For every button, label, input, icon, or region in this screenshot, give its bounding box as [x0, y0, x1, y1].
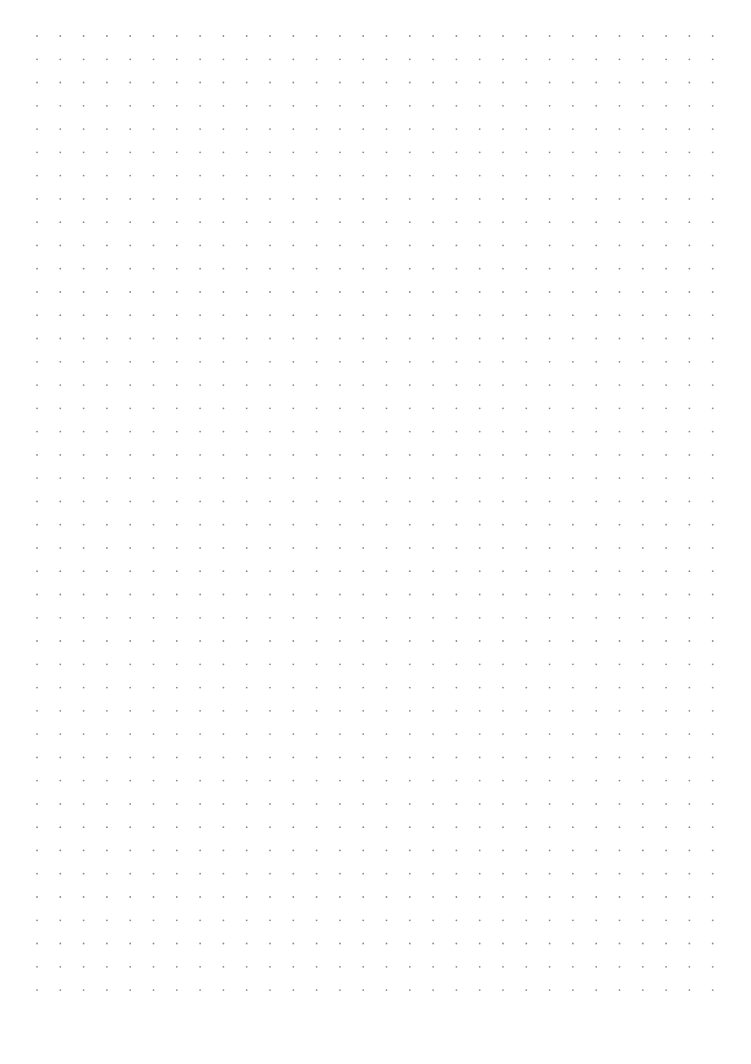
grid-dot: [176, 384, 178, 386]
grid-dot: [362, 151, 364, 153]
grid-dot: [525, 617, 527, 619]
grid-dot: [502, 361, 504, 363]
grid-dot: [712, 687, 714, 689]
grid-dot: [316, 826, 318, 828]
grid-dot: [665, 826, 667, 828]
grid-dot: [432, 896, 434, 898]
grid-dot: [502, 687, 504, 689]
grid-dot: [246, 198, 248, 200]
grid-dot: [362, 873, 364, 875]
grid-dot: [502, 850, 504, 852]
grid-dot: [432, 477, 434, 479]
grid-dot: [292, 221, 294, 223]
grid-dot: [199, 640, 201, 642]
grid-dot: [269, 501, 271, 503]
grid-dot: [223, 361, 225, 363]
grid-dot: [246, 617, 248, 619]
grid-dot: [386, 757, 388, 759]
grid-dot: [665, 966, 667, 968]
grid-dot: [689, 594, 691, 596]
grid-dot: [316, 361, 318, 363]
grid-dot: [712, 594, 714, 596]
grid-dot: [572, 58, 574, 60]
grid-dot: [502, 501, 504, 503]
grid-dot: [595, 338, 597, 340]
grid-dot: [712, 663, 714, 665]
grid-dot: [479, 128, 481, 130]
grid-dot: [712, 850, 714, 852]
grid-dot: [316, 943, 318, 945]
grid-dot: [712, 291, 714, 293]
grid-dot: [689, 407, 691, 409]
grid-dot: [316, 989, 318, 991]
grid-dot: [572, 477, 574, 479]
grid-dot: [176, 58, 178, 60]
grid-dot: [525, 128, 527, 130]
grid-dot: [456, 966, 458, 968]
grid-dot: [176, 547, 178, 549]
grid-dot: [269, 943, 271, 945]
grid-dot: [619, 826, 621, 828]
grid-dot: [386, 617, 388, 619]
grid-dot: [292, 361, 294, 363]
grid-dot: [59, 407, 61, 409]
grid-dot: [199, 58, 201, 60]
grid-dot: [176, 780, 178, 782]
grid-dot: [129, 58, 131, 60]
grid-dot: [386, 454, 388, 456]
grid-dot: [269, 687, 271, 689]
grid-dot: [456, 128, 458, 130]
grid-dot: [619, 198, 621, 200]
grid-dot: [362, 640, 364, 642]
grid-dot: [316, 82, 318, 84]
grid-dot: [316, 338, 318, 340]
grid-dot: [339, 454, 341, 456]
grid-dot: [339, 151, 341, 153]
grid-dot: [59, 291, 61, 293]
grid-dot: [689, 617, 691, 619]
grid-dot: [595, 570, 597, 572]
grid-dot: [456, 640, 458, 642]
grid-dot: [665, 128, 667, 130]
grid-dot: [246, 873, 248, 875]
grid-dot: [83, 35, 85, 37]
grid-dot: [479, 431, 481, 433]
grid-dot: [386, 245, 388, 247]
grid-dot: [316, 547, 318, 549]
grid-dot: [479, 826, 481, 828]
grid-dot: [129, 570, 131, 572]
grid-dot: [153, 245, 155, 247]
grid-dot: [362, 570, 364, 572]
grid-dot: [129, 105, 131, 107]
grid-dot: [339, 291, 341, 293]
grid-dot: [595, 780, 597, 782]
grid-dot: [246, 384, 248, 386]
grid-dot: [362, 850, 364, 852]
grid-dot: [642, 617, 644, 619]
grid-dot: [712, 919, 714, 921]
grid-dot: [269, 198, 271, 200]
grid-dot: [59, 733, 61, 735]
grid-dot: [502, 640, 504, 642]
grid-dot: [176, 640, 178, 642]
grid-dot: [712, 710, 714, 712]
grid-dot: [386, 919, 388, 921]
grid-dot: [339, 803, 341, 805]
grid-dot: [456, 338, 458, 340]
grid-dot: [269, 896, 271, 898]
grid-dot: [246, 291, 248, 293]
grid-dot: [386, 826, 388, 828]
grid-dot: [549, 943, 551, 945]
grid-dot: [665, 314, 667, 316]
grid-dot: [129, 338, 131, 340]
grid-dot: [269, 35, 271, 37]
grid-dot: [59, 361, 61, 363]
grid-dot: [339, 826, 341, 828]
grid-dot: [36, 570, 38, 572]
grid-dot: [712, 338, 714, 340]
grid-dot: [59, 896, 61, 898]
grid-dot: [456, 780, 458, 782]
grid-dot: [712, 966, 714, 968]
grid-dot: [595, 291, 597, 293]
grid-dot: [689, 221, 691, 223]
